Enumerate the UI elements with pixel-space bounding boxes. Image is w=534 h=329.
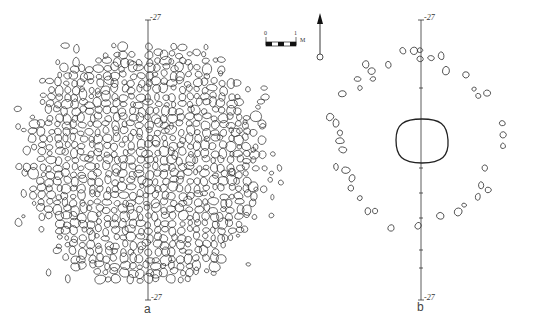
pebble	[194, 130, 200, 135]
pebble	[104, 215, 111, 221]
pebble	[53, 177, 61, 185]
pebble	[70, 148, 77, 158]
pebble	[135, 122, 143, 129]
panel-a-pebble-pavement	[14, 20, 283, 300]
pebble	[153, 107, 159, 113]
pebble	[333, 119, 339, 127]
pebble	[203, 240, 211, 248]
pebble	[48, 93, 56, 100]
pebble	[127, 274, 134, 284]
pebble	[185, 185, 191, 193]
pebble	[368, 68, 375, 75]
pebble	[185, 133, 192, 144]
pebble	[47, 135, 53, 142]
pebble	[219, 93, 225, 101]
pebble	[112, 214, 118, 222]
pebble	[74, 44, 80, 53]
pebble	[210, 192, 215, 198]
pebble	[140, 183, 144, 188]
pebble	[122, 84, 129, 92]
pebble	[53, 204, 62, 214]
pebble	[70, 66, 79, 73]
pebble	[203, 185, 210, 191]
pebble	[46, 269, 51, 276]
pebble	[229, 183, 235, 190]
pebble	[55, 228, 63, 234]
pebble	[40, 99, 45, 104]
pebble	[180, 137, 186, 143]
pebble	[167, 192, 176, 200]
pebble	[270, 152, 275, 157]
central-pit	[396, 119, 448, 163]
pebble	[358, 86, 362, 91]
pebble	[208, 198, 219, 205]
pebble	[155, 248, 161, 256]
panel-b-axis-bottom-label: -27	[424, 293, 435, 302]
pebble	[178, 277, 183, 283]
pebble	[436, 212, 444, 219]
pebble	[342, 167, 350, 173]
pebble	[234, 192, 243, 199]
pebble	[370, 77, 375, 82]
pebble	[171, 85, 176, 90]
pebble	[123, 240, 128, 247]
pebble	[354, 77, 361, 82]
pebble	[135, 196, 144, 204]
pebble	[166, 274, 175, 283]
scale-bar	[266, 37, 296, 46]
pebble	[93, 121, 101, 128]
pebble	[181, 270, 186, 276]
pebble	[40, 78, 46, 83]
pebble	[55, 77, 62, 86]
pebble	[186, 85, 192, 92]
pebble	[219, 80, 225, 86]
pebble	[170, 200, 177, 206]
pebble	[105, 175, 111, 184]
pebble	[195, 246, 202, 253]
pebble	[113, 98, 120, 107]
pebble	[163, 178, 170, 185]
pebble	[194, 219, 200, 225]
pebble	[262, 166, 267, 171]
pebble	[78, 190, 86, 201]
pebble	[244, 189, 251, 197]
pebble	[57, 235, 62, 239]
pebble	[212, 107, 219, 113]
pebble	[80, 106, 87, 113]
pebble	[235, 121, 241, 127]
pebble	[500, 132, 506, 138]
pebble	[151, 270, 162, 278]
pebble	[218, 228, 226, 235]
pebble	[172, 234, 178, 241]
pebble	[135, 165, 143, 173]
panel-a-axis-bottom-label: -27	[151, 293, 162, 302]
pebble	[64, 205, 71, 211]
pebble	[336, 138, 345, 144]
pebble	[15, 218, 22, 226]
pebble	[415, 222, 421, 229]
pebble	[23, 146, 31, 155]
pebble	[95, 224, 101, 231]
pebble	[195, 71, 202, 77]
pebble	[213, 184, 218, 190]
pebble	[63, 134, 68, 142]
pebble	[85, 67, 93, 73]
pebble	[46, 145, 53, 151]
pebble	[28, 134, 36, 142]
pebble	[40, 164, 46, 171]
pebble	[102, 207, 110, 213]
pebble	[211, 241, 217, 248]
pebble	[29, 120, 40, 129]
pebble	[260, 186, 267, 193]
pebble	[204, 44, 208, 50]
pebble	[110, 143, 117, 151]
pebble	[212, 249, 219, 256]
pebble	[103, 256, 110, 263]
pebble	[137, 84, 142, 92]
pebble	[234, 98, 243, 105]
pebble	[38, 142, 46, 148]
pebble	[165, 126, 177, 135]
pebble	[337, 130, 342, 136]
pebble	[362, 61, 368, 68]
pebble	[70, 133, 75, 141]
